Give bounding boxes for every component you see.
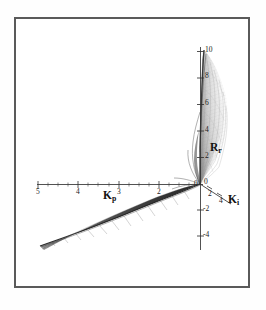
tick-kp-2: 2 [157,188,161,196]
tick-ki-2: 2 [208,190,212,198]
tick-kp-3: 3 [117,188,121,196]
axis-label-ki: Ki [228,194,239,207]
tick-rr-2: 2 [205,152,209,160]
surface-knee [172,112,200,189]
tick-kp-4: 4 [76,188,80,196]
tick-rr-6: 6 [205,99,209,107]
tick-rr-neg4: -4 [203,231,209,239]
axis-label-ki-sub: i [237,198,239,207]
axis-label-kp: Kp [103,190,116,203]
tick-ki-0: 0 [194,180,198,188]
axis-label-ki-base: K [228,193,237,205]
tick-kp-5: 5 [36,188,40,196]
tick-rr-0: 0 [204,178,208,186]
tick-rr-neg2: -2 [203,205,209,213]
tick-rr-4: 4 [205,126,209,134]
axis-label-kp-sub: p [112,194,116,203]
surface-plot [0,0,266,310]
axis-label-kp-base: K [103,189,112,201]
tick-rr-8: 8 [205,72,209,80]
axis-label-rr: Rr [210,142,222,155]
axis-label-rr-sub: r [218,146,221,155]
tick-rr-10: 10 [205,46,213,54]
tick-ki-4: 4 [219,197,223,205]
figure-canvas: 10 8 6 4 2 0 -2 -4 5 4 3 2 0 2 4 Rr Kp K… [0,0,266,310]
